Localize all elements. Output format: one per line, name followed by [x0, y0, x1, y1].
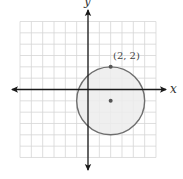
point-label: (2, 2) — [113, 50, 140, 61]
x-axis-label: x — [170, 82, 177, 96]
y-axis-label: y — [83, 0, 91, 8]
coordinate-graph: x y (2, 2) — [0, 0, 183, 179]
center-point — [109, 99, 113, 103]
labeled-point — [109, 65, 113, 69]
